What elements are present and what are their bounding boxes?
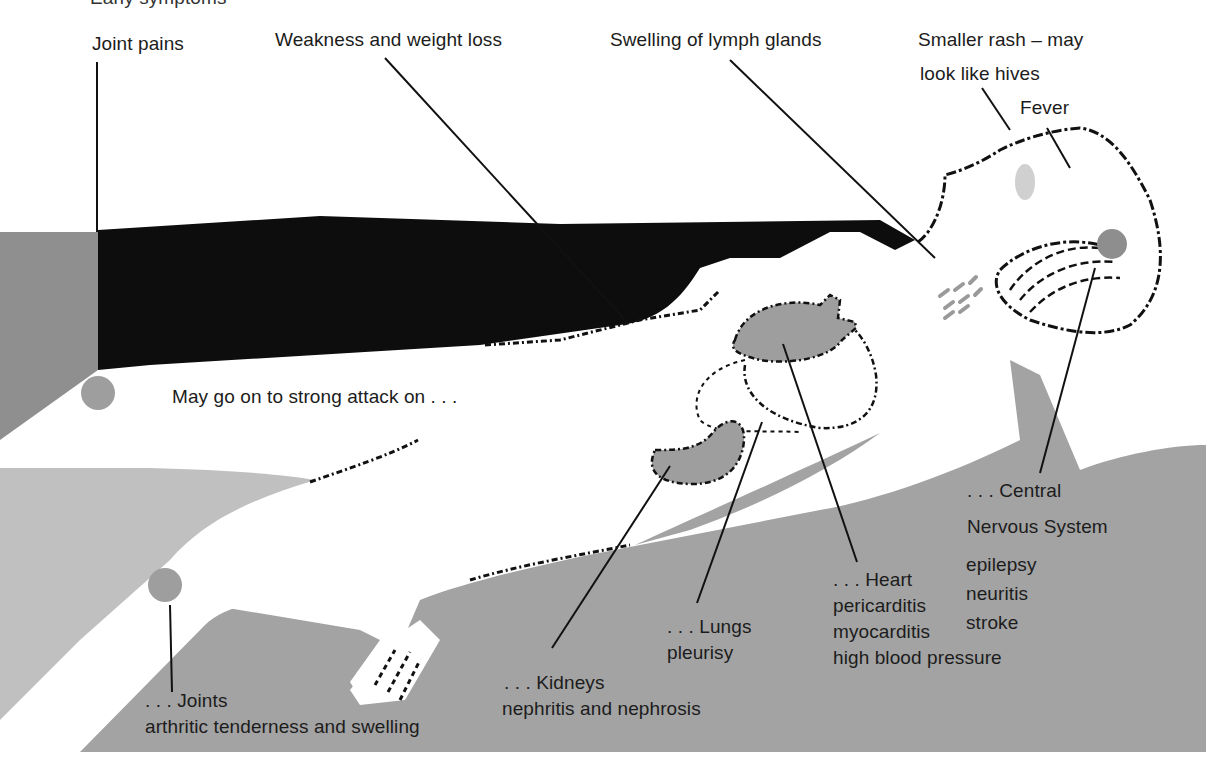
organ-lungs-title: . . . Lungs [667,614,752,640]
label-weakness-weight-loss: Weakness and weight loss [275,28,502,52]
organ-joints: . . . Joints arthritic tenderness and sw… [145,688,420,740]
transition-text: May go on to strong attack on . . . [172,385,458,409]
organ-kidneys: . . . Kidneys nephritis and nephrosis [502,670,701,722]
cns-marker [1097,229,1127,259]
organ-joints-condition: arthritic tenderness and swelling [145,714,420,740]
organ-cns-title-line1: . . . Central [967,479,1061,503]
left-dark-wedge [0,232,98,440]
joint-marker-shoulder [81,376,115,410]
lymph-gland-marks [940,277,981,318]
organ-kidneys-condition: nephritis and nephrosis [502,696,701,722]
rash-mark [1015,164,1035,200]
organ-joints-title: . . . Joints [145,688,420,714]
organ-lungs-condition: pleurisy [667,640,752,666]
organ-cns-conditions: epilepsy neuritis stroke [966,550,1037,637]
organ-cns-condition-3: stroke [966,608,1037,637]
organ-kidneys-title: . . . Kidneys [502,670,701,696]
heart-organ [733,295,856,362]
organ-lungs: . . . Lungs pleurisy [667,614,752,666]
organ-cns-condition-2: neuritis [966,579,1037,608]
joint-marker-elbow [148,568,182,602]
cropped-heading: Early symptoms [90,0,227,10]
label-joint-pains: Joint pains [92,32,184,56]
label-smaller-rash-line1: Smaller rash – may [918,28,1083,52]
label-fever: Fever [1020,96,1069,120]
hair-lines [1010,247,1120,312]
label-lymph-glands: Swelling of lymph glands [610,28,822,52]
organ-heart-condition-3: high blood pressure [833,645,1002,671]
organ-cns-condition-1: epilepsy [966,550,1037,579]
label-smaller-rash-line2: look like hives [920,62,1040,86]
organ-cns-title-line2: Nervous System [967,515,1108,539]
